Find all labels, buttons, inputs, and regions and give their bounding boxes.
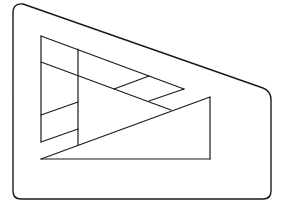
left-triangle-top-edge bbox=[41, 36, 184, 89]
outer-frame bbox=[13, 4, 271, 199]
left-slat-upper bbox=[41, 102, 78, 115]
left-slat-lower bbox=[41, 129, 78, 142]
left-triangle-lower-edge bbox=[149, 89, 184, 101]
geometric-figure bbox=[0, 0, 288, 217]
parallelogram-divider bbox=[114, 76, 149, 89]
inner-slant-line bbox=[41, 62, 171, 110]
inner-lines-group bbox=[41, 36, 210, 159]
